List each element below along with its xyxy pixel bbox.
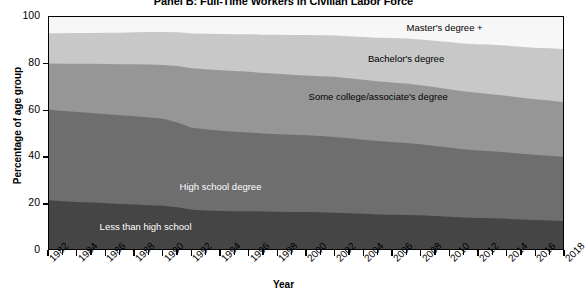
y-axis: 020406080100 bbox=[0, 0, 48, 294]
x-axis-label: Year bbox=[0, 279, 567, 290]
series-label: Master's degree + bbox=[407, 22, 483, 33]
series-label: Less than high school bbox=[100, 221, 192, 232]
x-tick-label: 2018 bbox=[563, 240, 587, 264]
series-label: High school degree bbox=[180, 181, 262, 192]
y-tick-label: 100 bbox=[0, 9, 40, 21]
series-label: Some college/associate's degree bbox=[309, 91, 448, 102]
stacked-area-series bbox=[49, 17, 563, 249]
y-axis-label: Percentage of age group bbox=[12, 46, 23, 206]
y-tick-label: 0 bbox=[0, 243, 40, 255]
plot-area bbox=[48, 16, 564, 250]
chart-title: Panel B: Full-Time Workers in Civilian L… bbox=[0, 0, 567, 7]
series-label: Bachelor's degree bbox=[368, 53, 444, 64]
